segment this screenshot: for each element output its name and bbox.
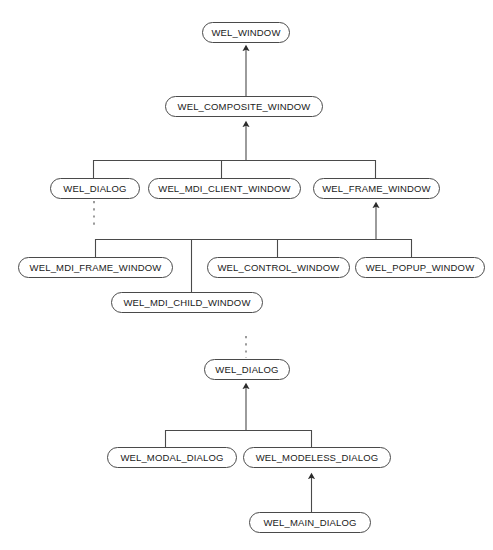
class-node-label: WEL_MODAL_DIALOG bbox=[120, 453, 223, 463]
class-node-label: WEL_MDI_FRAME_WINDOW bbox=[30, 263, 162, 273]
edge-dialogs-to-dialog bbox=[165, 386, 312, 447]
edge-level3-to-composite bbox=[93, 124, 376, 178]
class-node-label: WEL_WINDOW bbox=[211, 28, 280, 38]
class-node-label: WEL_CONTROL_WINDOW bbox=[218, 263, 340, 273]
class-node-label: WEL_FRAME_WINDOW bbox=[322, 184, 431, 194]
class-node-label: WEL_MDI_CLIENT_WINDOW bbox=[158, 184, 290, 194]
class-node-wel-control-window[interactable]: WEL_CONTROL_WINDOW bbox=[207, 257, 350, 278]
class-node-wel-mdi-client-window[interactable]: WEL_MDI_CLIENT_WINDOW bbox=[148, 178, 301, 199]
class-node-label: WEL_DIALOG bbox=[215, 365, 278, 375]
class-node-wel-mdi-frame-window[interactable]: WEL_MDI_FRAME_WINDOW bbox=[18, 257, 173, 278]
class-node-wel-modeless-dialog[interactable]: WEL_MODELESS_DIALOG bbox=[243, 447, 391, 468]
class-node-label: WEL_MDI_CHILD_WINDOW bbox=[123, 298, 250, 308]
class-node-label: WEL_COMPOSITE_WINDOW bbox=[178, 102, 311, 112]
class-node-label: WEL_POPUP_WINDOW bbox=[366, 263, 475, 273]
class-node-wel-popup-window[interactable]: WEL_POPUP_WINDOW bbox=[355, 257, 485, 278]
class-node-wel-mdi-child-window[interactable]: WEL_MDI_CHILD_WINDOW bbox=[111, 292, 263, 313]
class-node-label: WEL_DIALOG bbox=[63, 184, 126, 194]
class-node-wel-frame-window[interactable]: WEL_FRAME_WINDOW bbox=[313, 178, 440, 199]
class-node-wel-main-dialog[interactable]: WEL_MAIN_DIALOG bbox=[249, 512, 371, 533]
edge-level4-to-frame bbox=[95, 205, 412, 292]
class-node-label: WEL_MAIN_DIALOG bbox=[263, 518, 356, 528]
class-node-wel-dialog-top[interactable]: WEL_DIALOG bbox=[50, 178, 140, 199]
class-node-wel-window[interactable]: WEL_WINDOW bbox=[202, 22, 290, 43]
class-node-wel-modal-dialog[interactable]: WEL_MODAL_DIALOG bbox=[107, 447, 237, 468]
class-node-wel-dialog-bottom[interactable]: WEL_DIALOG bbox=[204, 359, 290, 380]
class-node-label: WEL_MODELESS_DIALOG bbox=[256, 453, 379, 463]
class-node-wel-composite-window[interactable]: WEL_COMPOSITE_WINDOW bbox=[165, 96, 323, 117]
